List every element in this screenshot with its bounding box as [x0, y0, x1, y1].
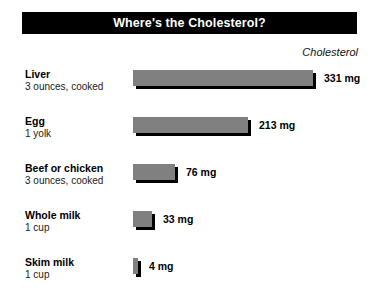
bar-value-label: 213 mg — [259, 118, 295, 132]
row-serving-label: 3 ounces, cooked — [25, 174, 130, 187]
cholesterol-chart: Where's the Cholesterol? Cholesterol Liv… — [0, 0, 376, 306]
bar-graphic — [133, 258, 138, 274]
chart-title-banner: Where's the Cholesterol? — [22, 12, 357, 34]
bar-zone: 76 mg — [133, 164, 175, 184]
bar-zone: 4 mg — [133, 258, 138, 278]
bar-value-label: 4 mg — [149, 259, 174, 273]
bar-graphic — [133, 70, 313, 86]
bar-fill — [133, 117, 248, 133]
bar-fill — [133, 70, 313, 86]
row-category-label: Skim milk — [25, 256, 130, 268]
bar-fill — [133, 164, 175, 180]
row-serving-label: 1 cup — [25, 268, 130, 281]
row-category-label: Egg — [25, 115, 130, 127]
row-label-group: Beef or chicken 3 ounces, cooked — [25, 162, 130, 187]
row-category-label: Beef or chicken — [25, 162, 130, 174]
bar-fill — [133, 258, 138, 274]
bar-value-label: 76 mg — [186, 165, 216, 179]
chart-row: Beef or chicken 3 ounces, cooked 76 mg — [0, 160, 376, 207]
bar-zone: 33 mg — [133, 211, 152, 231]
bar-value-label: 33 mg — [163, 212, 193, 226]
row-label-group: Egg 1 yolk — [25, 115, 130, 140]
bar-graphic — [133, 117, 248, 133]
bar-value-label: 331 mg — [324, 71, 360, 85]
bar-graphic — [133, 211, 152, 227]
bar-zone: 331 mg — [133, 70, 313, 90]
chart-row: Skim milk 1 cup 4 mg — [0, 254, 376, 301]
row-label-group: Liver 3 ounces, cooked — [25, 68, 130, 93]
row-label-group: Whole milk 1 cup — [25, 209, 130, 234]
row-serving-label: 3 ounces, cooked — [25, 80, 130, 93]
chart-rows: Liver 3 ounces, cooked 331 mg Egg 1 yolk — [0, 66, 376, 301]
value-column-header: Cholesterol — [302, 47, 358, 58]
bar-fill — [133, 211, 152, 227]
chart-row: Egg 1 yolk 213 mg — [0, 113, 376, 160]
row-category-label: Whole milk — [25, 209, 130, 221]
row-serving-label: 1 yolk — [25, 127, 130, 140]
row-label-group: Skim milk 1 cup — [25, 256, 130, 281]
chart-row: Whole milk 1 cup 33 mg — [0, 207, 376, 254]
chart-row: Liver 3 ounces, cooked 331 mg — [0, 66, 376, 113]
row-category-label: Liver — [25, 68, 130, 80]
bar-zone: 213 mg — [133, 117, 248, 137]
bar-graphic — [133, 164, 175, 180]
chart-title: Where's the Cholesterol? — [113, 17, 266, 30]
row-serving-label: 1 cup — [25, 221, 130, 234]
